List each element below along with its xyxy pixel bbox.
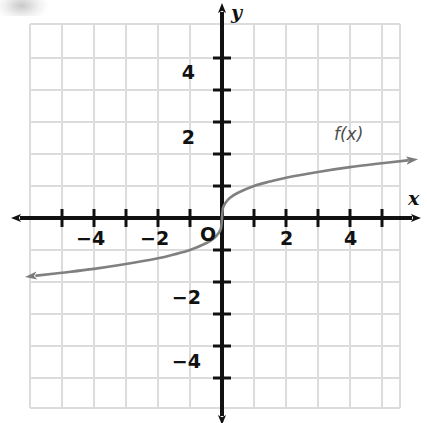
x-axis-label: x <box>408 189 419 208</box>
y-tick-label-2: 2 <box>182 128 195 147</box>
function-curve-label: f(x) <box>334 126 363 143</box>
y-tick-label-neg4: −4 <box>172 352 201 371</box>
graph-canvas <box>0 0 427 423</box>
x-tick-label-neg4: −4 <box>76 229 105 248</box>
origin-label: O <box>200 225 216 244</box>
y-axis-label: y <box>231 3 242 22</box>
y-tick-label-4: 4 <box>182 63 195 82</box>
y-tick-label-neg2: −2 <box>172 288 201 307</box>
x-tick-label-neg2: −2 <box>140 229 169 248</box>
coordinate-plane-figure: −4 −2 2 4 4 2 −2 −4 O x y f(x) <box>0 0 427 423</box>
x-tick-label-2: 2 <box>280 229 293 248</box>
x-tick-label-4: 4 <box>344 229 357 248</box>
